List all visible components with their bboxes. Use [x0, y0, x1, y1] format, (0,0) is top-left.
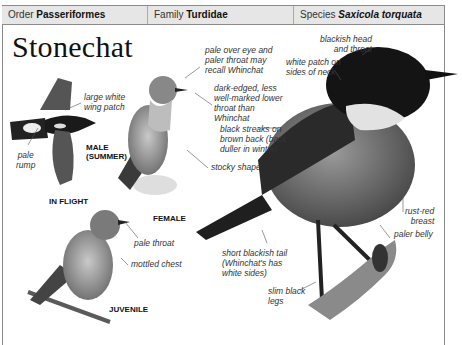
- label-pale-over-eye: pale over eye andpaler throat mayrecall …: [205, 45, 273, 75]
- label-rust-red-breast: rust-redbreast: [405, 206, 434, 226]
- label-short-tail: short blackish tail(Whinchat's haswhite …: [222, 248, 287, 278]
- label-pale-rump: palerump: [16, 150, 35, 170]
- female-illustration: [118, 76, 188, 195]
- label-white-patch: white patch onsides of neck: [286, 57, 341, 77]
- label-wing-patch: large whitewing patch: [84, 92, 125, 112]
- label-paler-belly: paler belly: [394, 229, 433, 239]
- caption-in-flight: IN FLIGHT: [49, 197, 88, 206]
- caption-juvenile: JUVENILE: [109, 305, 148, 314]
- label-pale-throat: pale throat: [134, 238, 174, 248]
- label-dark-edged: dark-edged, lesswell-marked lowerthroat …: [214, 83, 283, 123]
- caption-male-summer: MALE(SUMMER): [86, 143, 127, 161]
- label-stocky-shape: stocky shape: [211, 162, 261, 172]
- label-slim-legs: slim blacklegs: [268, 286, 305, 306]
- label-blackish-head: blackish headand throat: [320, 34, 372, 54]
- caption-female: FEMALE: [153, 214, 186, 223]
- label-mottled-chest: mottled chest: [131, 259, 182, 269]
- label-black-streaks: black streaks onbrown back (backduller i…: [220, 124, 287, 154]
